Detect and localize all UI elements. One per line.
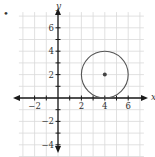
grid-lines [19, 12, 144, 157]
coordinate-plane: xy −2246642−2−4 [0, 0, 155, 157]
y-tick-label: 6 [49, 23, 54, 33]
center-point [103, 73, 107, 77]
y-tick-label: −4 [41, 140, 54, 150]
x-tick-label: 4 [102, 101, 107, 111]
x-tick-label: −2 [28, 101, 41, 111]
x-axis-arrow-left-icon [13, 95, 20, 101]
y-tick-label: 4 [49, 46, 54, 56]
y-tick-label: −2 [41, 116, 54, 126]
item-bullet: • [3, 8, 9, 19]
y-tick-label: 2 [49, 70, 54, 80]
y-axis-arrow-down-icon [55, 146, 61, 153]
x-axis-label: x [151, 92, 155, 102]
x-axis-arrow-right-icon [141, 95, 148, 101]
x-tick-label: 6 [125, 101, 130, 111]
coordinate-plane-figure: • xy −2246642−2−4 [0, 0, 155, 157]
x-tick-label: 2 [79, 101, 84, 111]
y-axis-label: y [55, 1, 62, 11]
